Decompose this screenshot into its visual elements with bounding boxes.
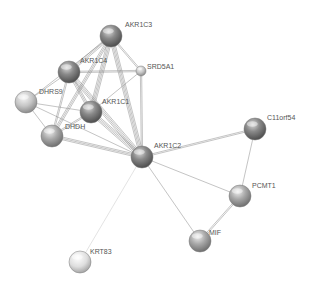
- protein-node-icon[interactable]: [189, 230, 211, 252]
- edge-akr1c2-krt83[interactable]: [80, 157, 142, 262]
- protein-node-icon[interactable]: [41, 125, 63, 147]
- node-akr1c3[interactable]: AKR1C3: [100, 21, 152, 47]
- edge-akr1c2-mif[interactable]: [142, 157, 200, 241]
- node-label: DHRS9: [39, 88, 63, 95]
- edge-akr1c2-pcmt1[interactable]: [142, 157, 240, 196]
- node-label: AKR1C2: [154, 142, 181, 149]
- network-diagram: AKR1C3AKR1C4SRD5A1DHRS9AKR1C1DHDHAKR1C2C…: [0, 0, 310, 287]
- protein-node-icon[interactable]: [15, 91, 37, 113]
- node-label: AKR1C4: [80, 57, 107, 64]
- node-mif[interactable]: MIF: [189, 229, 221, 252]
- node-label: AKR1C1: [102, 98, 129, 105]
- node-highlight: [83, 104, 94, 110]
- node-highlight: [232, 188, 243, 194]
- node-krt83[interactable]: KRT83: [69, 248, 112, 273]
- node-layer: AKR1C3AKR1C4SRD5A1DHRS9AKR1C1DHDHAKR1C2C…: [15, 21, 295, 273]
- node-label: SRD5A1: [147, 63, 174, 70]
- protein-node-icon[interactable]: [136, 66, 146, 76]
- node-highlight: [72, 254, 83, 260]
- protein-node-icon[interactable]: [229, 185, 251, 207]
- node-highlight: [192, 233, 203, 239]
- node-label: C11orf54: [267, 114, 295, 121]
- node-highlight: [247, 121, 258, 127]
- node-highlight: [61, 64, 72, 70]
- protein-node-icon[interactable]: [69, 251, 91, 273]
- protein-node-icon[interactable]: [131, 146, 153, 168]
- node-highlight: [103, 28, 114, 34]
- node-label: KRT83: [90, 248, 112, 255]
- node-label: DHDH: [65, 123, 85, 130]
- node-label: AKR1C3: [125, 21, 152, 28]
- node-highlight: [44, 128, 55, 134]
- node-highlight: [18, 94, 29, 100]
- node-highlight: [134, 149, 145, 155]
- protein-node-icon[interactable]: [100, 25, 122, 47]
- edge-akr1c3-akr1c2[interactable]: [109, 36, 144, 158]
- node-highlight: [137, 68, 142, 71]
- node-label: PCMT1: [252, 182, 276, 189]
- protein-node-icon[interactable]: [80, 101, 102, 123]
- node-label: MIF: [209, 229, 221, 236]
- protein-node-icon[interactable]: [244, 118, 266, 140]
- protein-node-icon[interactable]: [58, 61, 80, 83]
- node-srd5a1[interactable]: SRD5A1: [136, 63, 174, 76]
- node-pcmt1[interactable]: PCMT1: [229, 182, 276, 207]
- node-dhrs9[interactable]: DHRS9: [15, 88, 63, 113]
- node-c11orf54[interactable]: C11orf54: [244, 114, 295, 140]
